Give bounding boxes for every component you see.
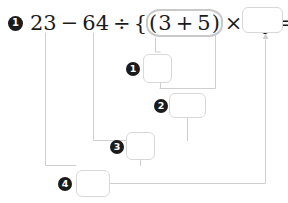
plus-operator: +	[173, 11, 197, 35]
step-1-answer-box[interactable]	[143, 54, 172, 83]
wire-64-to-step3	[94, 33, 141, 141]
parenthesis-group-oval: ( 3 + 5 )	[147, 11, 222, 35]
step-4-answer-box[interactable]	[76, 170, 110, 197]
step-3-answer-box[interactable]	[126, 132, 155, 160]
divide-operator: ÷	[110, 11, 134, 35]
operand-3: 3	[157, 11, 172, 35]
operand-23: 23	[29, 11, 58, 35]
final-answer-box[interactable]	[242, 7, 283, 33]
step-2-answer-box[interactable]	[169, 93, 206, 118]
open-paren: (	[149, 11, 157, 35]
step-2-badge: 2	[154, 99, 168, 113]
wire-23-to-step4	[46, 33, 77, 166]
operand-5: 5	[196, 11, 211, 35]
close-paren: )	[212, 11, 220, 35]
problem-number-badge: 1	[8, 16, 23, 31]
step-4-badge: 4	[58, 177, 72, 191]
wire-paren-to-step1	[156, 38, 161, 52]
step-3-badge: 3	[110, 140, 124, 154]
worksheet-canvas: 1 23 − 64 ÷ { ( 3 + 5 ) × 4 } = 1 2 3 4	[0, 0, 288, 203]
step-1-badge: 1	[126, 62, 140, 76]
minus-operator: −	[58, 11, 82, 35]
operand-64: 64	[81, 11, 110, 35]
open-brace: {	[134, 11, 147, 35]
